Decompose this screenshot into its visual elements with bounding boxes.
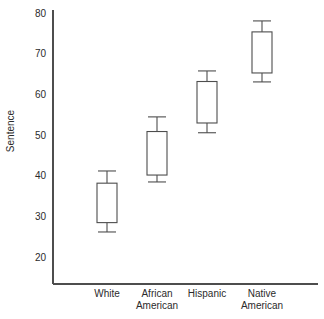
y-axis-tick-labels: 20304050607080: [35, 8, 47, 263]
y-tick-label: 20: [35, 252, 47, 263]
y-tick-label: 80: [35, 8, 47, 19]
y-tick-label: 60: [35, 89, 47, 100]
y-tick-label: 40: [35, 170, 47, 181]
x-tick-label: White: [94, 288, 120, 299]
axis-lines: [53, 10, 318, 284]
box-iqr: [147, 132, 167, 176]
x-tick-label: American: [136, 300, 178, 311]
box-plot-item: [147, 117, 167, 182]
box-plot-item: [252, 21, 272, 82]
plot-canvas: 20304050607080 WhiteAfricanAmericanHispa…: [0, 0, 324, 319]
x-axis-tick-labels: WhiteAfricanAmericanHispanicNativeAmeric…: [94, 288, 283, 311]
x-tick-label: Hispanic: [188, 288, 226, 299]
y-axis-title: Sentence: [5, 109, 16, 152]
y-tick-label: 70: [35, 48, 47, 59]
box-iqr: [197, 82, 217, 123]
box-iqr: [252, 32, 272, 73]
x-tick-label: African: [141, 288, 172, 299]
box-plot-item: [97, 171, 117, 232]
x-tick-label: American: [241, 300, 283, 311]
boxplot-figure: 20304050607080 WhiteAfricanAmericanHispa…: [0, 0, 324, 319]
box-series: [97, 21, 272, 232]
x-tick-label: Native: [248, 288, 277, 299]
box-iqr: [97, 183, 117, 222]
y-tick-label: 50: [35, 130, 47, 141]
box-plot-item: [197, 71, 217, 133]
y-axis-title-label: Sentence: [5, 109, 16, 152]
y-tick-label: 30: [35, 211, 47, 222]
